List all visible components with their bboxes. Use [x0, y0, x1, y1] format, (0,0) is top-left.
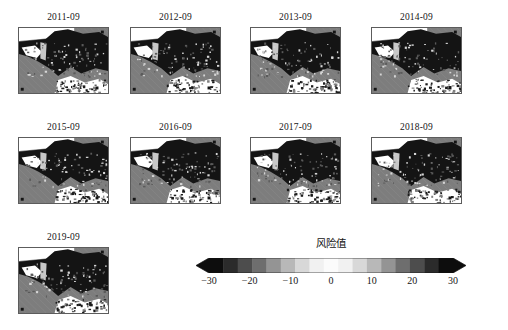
map-panel-2016-09[interactable]: 2016-09	[130, 137, 221, 204]
map-image[interactable]	[250, 137, 341, 204]
map-panel-2017-09[interactable]: 2017-09	[250, 137, 341, 204]
map-image[interactable]	[18, 137, 109, 204]
map-panel-2013-09[interactable]: 2013-09	[250, 27, 341, 94]
colorbar-gradient[interactable]	[196, 258, 466, 273]
panel-title: 2019-09	[18, 231, 109, 243]
map-image[interactable]	[18, 27, 109, 94]
colorbar-tick-label: −20	[242, 274, 258, 288]
map-image[interactable]	[130, 137, 221, 204]
figure-canvas: 2011-09 2012-09 2013-09 2014-09 2015-09 …	[0, 0, 508, 330]
map-panel-2012-09[interactable]: 2012-09	[130, 27, 221, 94]
panel-title: 2015-09	[18, 121, 109, 133]
map-panel-2014-09[interactable]: 2014-09	[371, 27, 462, 94]
map-panel-2011-09[interactable]: 2011-09	[18, 27, 109, 94]
map-panel-2018-09[interactable]: 2018-09	[371, 137, 462, 204]
colorbar: 风险值 −30−20−100102030	[196, 236, 466, 298]
colorbar-tick-label: 10	[367, 274, 377, 288]
colorbar-tick-label: −10	[283, 274, 299, 288]
colorbar-title: 风险值	[196, 236, 466, 250]
panel-title: 2012-09	[130, 11, 221, 23]
colorbar-tick-labels: −30−20−100102030	[196, 274, 466, 290]
panel-title: 2016-09	[130, 121, 221, 133]
colorbar-tick-label: −30	[201, 274, 217, 288]
panel-title: 2013-09	[250, 11, 341, 23]
colorbar-tick-label: 30	[448, 274, 458, 288]
map-image[interactable]	[250, 27, 341, 94]
colorbar-tick-label: 20	[407, 274, 417, 288]
colorbar-tick-label: 0	[329, 274, 334, 288]
map-panel-2015-09[interactable]: 2015-09	[18, 137, 109, 204]
map-image[interactable]	[130, 27, 221, 94]
map-panel-2019-09[interactable]: 2019-09	[18, 247, 109, 314]
map-image[interactable]	[371, 27, 462, 94]
panel-title: 2018-09	[371, 121, 462, 133]
panel-title: 2017-09	[250, 121, 341, 133]
map-image[interactable]	[371, 137, 462, 204]
panel-title: 2014-09	[371, 11, 462, 23]
map-image[interactable]	[18, 247, 109, 314]
panel-title: 2011-09	[18, 11, 109, 23]
